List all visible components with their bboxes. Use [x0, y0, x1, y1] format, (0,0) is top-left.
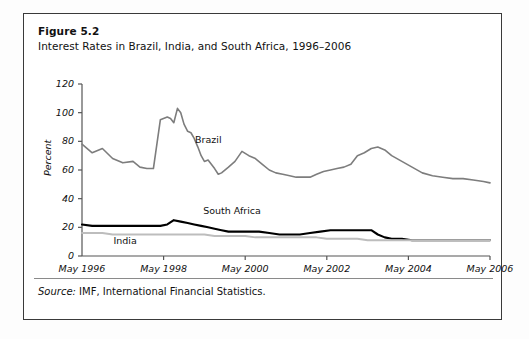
chart-plot-area: 020406080100120May 1996May 1998May 2000M…	[24, 72, 503, 292]
figure-title: Interest Rates in Brazil, India, and Sou…	[38, 40, 351, 52]
source-divider	[34, 278, 493, 279]
figure-box: Figure 5.2 Interest Rates in Brazil, Ind…	[23, 13, 502, 320]
y-axis-tick-label: 120	[50, 78, 74, 89]
interest-rates-line-chart	[24, 72, 503, 292]
source-label: Source:	[38, 286, 76, 297]
series-annotation-south-africa: South Africa	[203, 205, 261, 216]
x-axis-tick-label: May 2004	[378, 263, 438, 274]
source-text: IMF, International Financial Statistics.	[76, 286, 266, 297]
x-axis-tick-label: May 1998	[134, 263, 194, 274]
y-axis-tick-label: 20	[50, 221, 74, 232]
source-note: Source: IMF, International Financial Sta…	[38, 286, 266, 297]
x-axis-tick-label: May 1996	[52, 263, 112, 274]
y-axis-tick-label: 60	[50, 164, 74, 175]
x-axis-tick-label: May 2006	[460, 263, 520, 274]
x-axis-tick-label: May 2002	[297, 263, 357, 274]
x-axis-tick-label: May 2000	[215, 263, 275, 274]
y-axis-tick-label: 0	[50, 250, 74, 261]
y-axis-title: Percent	[42, 139, 53, 175]
y-axis-tick-label: 100	[50, 107, 74, 118]
y-axis-tick-label: 40	[50, 193, 74, 204]
figure-number: Figure 5.2	[38, 25, 99, 37]
series-annotation-india: India	[113, 235, 136, 246]
y-axis-tick-label: 80	[50, 135, 74, 146]
series-annotation-brazil: Brazil	[195, 134, 222, 145]
series-line-brazil	[82, 108, 490, 183]
